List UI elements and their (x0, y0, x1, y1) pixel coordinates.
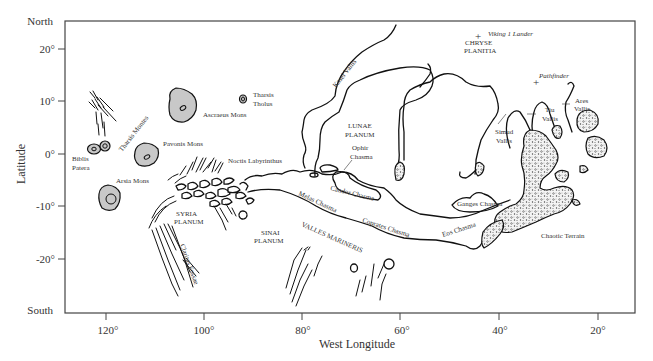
ganges-label: Ganges Chasma (457, 200, 503, 208)
lunae-label: PLANUM (345, 131, 375, 139)
x-tick-label: 120° (98, 324, 119, 336)
chryse-label: PLANITIA (464, 47, 496, 55)
svg-text:Tholus: Tholus (253, 100, 273, 108)
chryse-outflow (403, 64, 498, 174)
ophir-label: Ophir (352, 144, 369, 152)
arsia-mons: Arsia Mons (99, 177, 149, 210)
valles-marineris: Ophir Chasma Candor Chasma Melas Chasma … (245, 144, 512, 255)
y-axis: North 20° 10° 0° -10° -20° South Latitud… (14, 15, 65, 316)
svg-text:Biblis: Biblis (72, 155, 89, 163)
x-tick-label: 40° (492, 324, 507, 336)
north-label: North (27, 15, 53, 27)
tharsis-tholus: Tharsis Tholus (240, 91, 274, 108)
south-label: South (27, 304, 53, 316)
svg-text:Ascraeus Mons: Ascraeus Mons (203, 111, 247, 119)
y-tick-label: -20° (36, 253, 55, 265)
y-tick-label: -10° (36, 200, 55, 212)
y-tick-label: 10° (40, 95, 55, 107)
sinai-label: SINAI (261, 229, 280, 237)
tiu-label: Tiu (545, 106, 555, 114)
y-axis-title: Latitude (14, 144, 28, 184)
x-tick-label: 100° (194, 324, 215, 336)
chaotic-terrain-label: Chaotic Terrain (541, 232, 585, 240)
eos-label: Eos Chasma (441, 220, 477, 239)
ascraeus-mons: Ascraeus Mons (169, 88, 247, 122)
melas-label: Melas Chasma (297, 190, 339, 215)
valles-marineris-label: VALLES MARINERIS (300, 221, 364, 255)
lunae-label: LUNAE (348, 122, 372, 130)
mars-map: North 20° 10° 0° -10° -20° South Latitud… (0, 0, 653, 361)
x-axis-title: West Longitude (319, 337, 395, 351)
svg-text:Arsia Mons: Arsia Mons (116, 177, 149, 185)
cross-marker-icon: + (475, 30, 481, 42)
tiu-label: Vallis (542, 115, 558, 123)
biblis-patera: Biblis Patera (72, 141, 110, 172)
syria-label: PLANUM (174, 218, 204, 226)
y-tick-label: 0° (45, 148, 55, 160)
svg-text:Patera: Patera (72, 164, 90, 172)
simud-label: Vallis (496, 137, 512, 145)
claritas-label: Claritas Fossae (178, 243, 200, 286)
x-tick-label: 60° (394, 324, 409, 336)
sinai-label: PLANUM (254, 237, 284, 245)
svg-text:Noctis Labyrinthus: Noctis Labyrinthus (228, 157, 282, 165)
tharsis-fractures (89, 91, 116, 136)
svg-text:Pathfinder: Pathfinder (538, 72, 569, 80)
ares-label: Ares (575, 97, 588, 105)
y-tick-label: 20° (40, 43, 55, 55)
candor-label: Candor Chasma (330, 184, 376, 203)
coprates-label: Coprates Chasma (361, 216, 411, 239)
ophir-label: Chasma (350, 153, 373, 161)
x-tick-label: 20° (590, 324, 605, 336)
x-axis: 120° 100° 80° 60° 40° 20° West Longitude (98, 313, 606, 351)
syria-label: SYRIA (176, 210, 197, 218)
svg-text:Viking 1 Lander: Viking 1 Lander (488, 30, 533, 38)
svg-text:Pavonis Mons: Pavonis Mons (163, 140, 203, 148)
southern-fractures (286, 247, 394, 306)
svg-text:Tharsis: Tharsis (253, 91, 274, 99)
simud-label: Simud (495, 128, 514, 136)
pathfinder-site: + Pathfinder (533, 72, 569, 88)
kasei-label: Kasei Vallis (331, 58, 358, 90)
x-tick-label: 80° (295, 324, 310, 336)
